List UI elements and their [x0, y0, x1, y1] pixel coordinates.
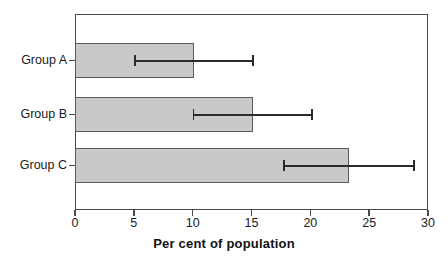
error-bar-group-a: [134, 55, 254, 66]
error-bar-cap-high: [252, 55, 254, 66]
error-bar-cap-low: [283, 160, 285, 171]
y-axis-label-group-a: Group A: [21, 54, 67, 67]
x-tick-label-20: 20: [290, 217, 330, 230]
error-bar-line: [283, 165, 415, 167]
error-bar-group-b: [193, 109, 313, 120]
y-axis-label-group-b: Group B: [20, 108, 67, 121]
error-bar-cap-high: [413, 160, 415, 171]
bar-chart: Group A Group B Group C 051015202530 Per…: [0, 0, 448, 269]
x-tick-label-15: 15: [232, 217, 272, 230]
y-axis-label-group-c: Group C: [20, 159, 67, 172]
x-tick-label-30: 30: [408, 217, 448, 230]
x-tick-label-0: 0: [55, 217, 95, 230]
error-bar-line: [134, 60, 254, 62]
error-bar-cap-low: [193, 109, 195, 120]
x-tick-label-10: 10: [173, 217, 213, 230]
x-tick-label-25: 25: [349, 217, 389, 230]
error-bar-group-c: [283, 160, 415, 171]
error-bar-cap-high: [311, 109, 313, 120]
error-bar-line: [193, 114, 313, 116]
x-tick-label-5: 5: [114, 217, 154, 230]
x-axis-title: Per cent of population: [0, 236, 448, 251]
error-bar-cap-low: [134, 55, 136, 66]
